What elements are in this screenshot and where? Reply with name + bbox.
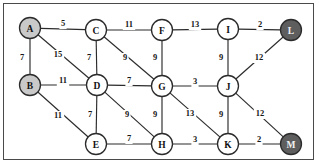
edge-weight-label: 12: [255, 52, 264, 62]
node-label-k: K: [224, 140, 232, 150]
edge-weight-label: 9: [219, 109, 223, 119]
node-label-i: I: [226, 25, 230, 35]
edge-weight-label: 11: [54, 110, 62, 120]
graph-node-h[interactable]: H: [152, 134, 173, 155]
graph-node-k[interactable]: K: [218, 134, 239, 155]
graph-edge-d-e: [96, 96, 97, 134]
node-label-f: F: [159, 26, 165, 36]
node-label-m: M: [287, 140, 296, 150]
edge-weight-label: 11: [125, 19, 133, 29]
graph-node-f[interactable]: F: [152, 20, 173, 41]
edge-weight-label: 9: [153, 109, 157, 119]
node-label-b: B: [27, 81, 34, 91]
edge-weight-label: 3: [193, 76, 197, 86]
edge-weight-label: 13: [191, 19, 200, 29]
edge-weight-label: 9: [219, 52, 223, 62]
graph-node-b[interactable]: B: [20, 75, 41, 96]
node-label-g: G: [158, 82, 166, 92]
edge-weight-label: 12: [256, 108, 265, 118]
graph-node-i[interactable]: I: [218, 19, 239, 40]
graph-node-d[interactable]: D: [87, 75, 108, 96]
graph-edge-c-d: [96, 41, 97, 75]
graph-canvas: 51113271579991211731179913912732 ABCDEFG…: [0, 0, 319, 165]
node-label-e: E: [93, 140, 99, 150]
graph-node-e[interactable]: E: [86, 134, 107, 155]
node-label-a: A: [27, 24, 34, 34]
edge-weight-label: 13: [186, 108, 195, 118]
edge-weight-label: 9: [153, 52, 157, 62]
node-label-h: H: [158, 140, 166, 150]
edge-weight-label: 5: [61, 18, 65, 28]
graph-node-j[interactable]: J: [218, 76, 239, 97]
node-label-c: C: [93, 26, 100, 36]
node-label-d: D: [94, 81, 101, 91]
graph-node-l[interactable]: L: [281, 20, 302, 41]
edge-weight-label: 11: [59, 75, 67, 85]
node-label-j: J: [226, 82, 231, 92]
edge-weight-label: 15: [54, 49, 63, 59]
edge-weight-label: 2: [257, 134, 261, 144]
edge-weight-label: 9: [125, 109, 129, 119]
graph-node-m[interactable]: M: [281, 134, 302, 155]
edge-weight-label: 9: [123, 52, 127, 62]
node-label-l: L: [288, 26, 294, 36]
graph-node-c[interactable]: C: [86, 20, 107, 41]
graph-figure: 51113271579991211731179913912732 ABCDEFG…: [0, 0, 319, 165]
graph-edge-c-g: [104, 37, 154, 79]
graph-node-a[interactable]: A: [20, 18, 41, 39]
edge-weight-label: 3: [193, 134, 197, 144]
edge-weight-label: 2: [258, 19, 262, 29]
graph-node-g[interactable]: G: [152, 76, 173, 97]
